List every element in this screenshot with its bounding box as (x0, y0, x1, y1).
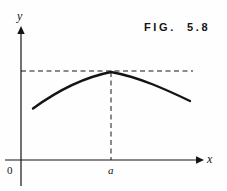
x-tick-label-a: a (108, 165, 114, 176)
origin-label: 0 (7, 165, 13, 176)
figure-container: FIG. 5.8 y x 0 a (0, 0, 227, 191)
x-axis-arrowhead-icon (196, 156, 204, 164)
figure-caption: FIG. 5.8 (144, 21, 210, 33)
y-axis-arrowhead-icon (17, 26, 24, 34)
x-axis-label: x (207, 153, 212, 165)
y-axis-label: y (17, 10, 22, 22)
